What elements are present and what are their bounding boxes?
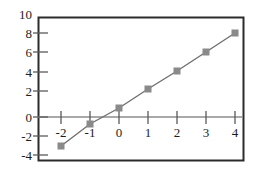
x-tick-label-2: 2 [163,126,191,139]
y-tick-label-0: 0 [8,111,32,124]
y-tick-label-2: 2 [8,85,32,98]
x-tick-label-neg2: -2 [47,126,75,139]
x-tick-label-1: 1 [134,126,162,139]
y-tick-label-8: 8 [8,27,32,40]
data-point [58,143,65,150]
data-point [203,49,210,56]
y-tick-label-4: 4 [8,66,32,79]
y-tick-label-10: 10 [8,8,32,21]
plot-area [0,0,258,175]
data-point [116,105,123,112]
chart-container: 10 8 6 4 2 0 -2 -4 -2 -1 0 1 2 3 4 [0,0,258,175]
y-tick-label-neg4: -4 [4,149,32,162]
data-point [145,86,152,93]
data-point [174,68,181,75]
x-tick-label-4: 4 [221,126,249,139]
x-tick-label-3: 3 [192,126,220,139]
y-tick-label-6: 6 [8,46,32,59]
data-point [232,30,239,37]
x-tick-label-neg1: -1 [76,126,104,139]
y-tick-label-neg2: -2 [4,130,32,143]
x-tick-label-0: 0 [105,126,133,139]
